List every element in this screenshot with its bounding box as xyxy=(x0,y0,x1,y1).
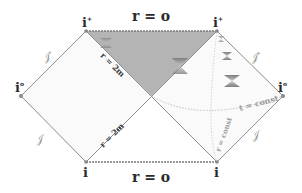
scri-plus-right-label: 𝒥+ xyxy=(248,50,264,65)
scri-minus-left-label: 𝒥 xyxy=(33,132,48,147)
i-zero-left-label: io xyxy=(15,80,24,95)
i-plus-left-label: i+ xyxy=(82,15,92,30)
i-zero-right-label: io xyxy=(278,80,287,95)
singularity-bottom-label: r = o xyxy=(132,169,170,185)
scri-minus-right-label: 𝒥 xyxy=(249,128,264,143)
penrose-diagram: r = o r = o i+ i+ io io i i 𝒥+ 𝒥+ 𝒥 𝒥 r … xyxy=(0,0,302,193)
i-plus-right-label: i+ xyxy=(213,15,223,30)
i-minus-right-label: i xyxy=(214,165,219,180)
vertex-i-minus-right xyxy=(215,160,219,164)
vertex-i-minus-left xyxy=(84,160,88,164)
i-minus-left-label: i xyxy=(83,165,88,180)
singularity-top-label: r = o xyxy=(132,8,170,24)
